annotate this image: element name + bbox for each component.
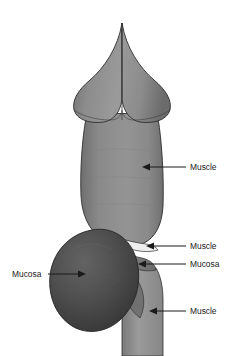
main-body [81, 114, 164, 247]
annotation-label: Muscle [190, 306, 217, 316]
annotation-label: Muscle [190, 162, 217, 172]
annotation-label: Mucosa [190, 259, 220, 269]
annotation-label: Muscle [190, 241, 217, 251]
anatomy-diagram: Muscle Muscle Mucosa Muscle Mucosa [0, 0, 246, 356]
annotation-label: Mucosa [12, 269, 42, 279]
